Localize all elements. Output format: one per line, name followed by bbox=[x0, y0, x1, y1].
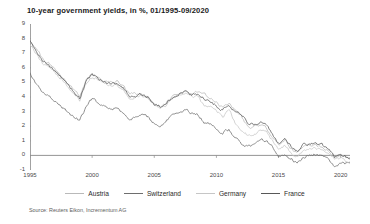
x-tick-label: 2015 bbox=[264, 172, 294, 178]
y-tick-label: 3 bbox=[11, 108, 25, 114]
legend-item-germany[interactable]: Germany bbox=[196, 190, 246, 197]
y-tick-label: 7 bbox=[11, 49, 25, 55]
line-chart-svg bbox=[30, 24, 350, 170]
x-tick-label: 2000 bbox=[77, 172, 107, 178]
x-tick-label: 1995 bbox=[15, 172, 45, 178]
x-tick-label: 2020 bbox=[326, 172, 356, 178]
legend-swatch bbox=[65, 193, 84, 194]
source-note: Source: Reuters Eikon, Incrementum AG bbox=[29, 207, 126, 213]
plot-area bbox=[30, 24, 350, 170]
chart-screenshot: 10-year government yields, in %, 01/1995… bbox=[0, 0, 370, 224]
y-tick-label: 6 bbox=[11, 64, 25, 70]
x-tick-label: 2010 bbox=[201, 172, 231, 178]
x-tick-label: 2005 bbox=[139, 172, 169, 178]
chart-legend: AustriaSwitzerlandGermanyFrance bbox=[0, 186, 370, 200]
series-line-france bbox=[30, 41, 350, 159]
y-tick-label: 0 bbox=[11, 151, 25, 157]
legend-item-austria[interactable]: Austria bbox=[65, 190, 109, 197]
legend-item-france[interactable]: France bbox=[261, 190, 305, 197]
legend-label: Switzerland bbox=[147, 190, 181, 197]
y-tick-label: 1 bbox=[11, 137, 25, 143]
y-tick-label: 8 bbox=[11, 35, 25, 41]
legend-swatch bbox=[196, 193, 215, 194]
legend-swatch bbox=[124, 193, 143, 194]
legend-label: Austria bbox=[88, 190, 109, 197]
y-tick-label: 2 bbox=[11, 122, 25, 128]
page-title: 10-year government yields, in %, 01/1995… bbox=[27, 6, 209, 15]
legend-swatch bbox=[261, 193, 280, 194]
y-tick-label: 4 bbox=[11, 93, 25, 99]
legend-label: Germany bbox=[219, 190, 246, 197]
legend-label: France bbox=[284, 190, 305, 197]
legend-item-switzerland[interactable]: Switzerland bbox=[124, 190, 181, 197]
series-line-austria bbox=[30, 41, 350, 158]
y-tick-label: 9 bbox=[11, 20, 25, 26]
y-tick-label: 5 bbox=[11, 78, 25, 84]
